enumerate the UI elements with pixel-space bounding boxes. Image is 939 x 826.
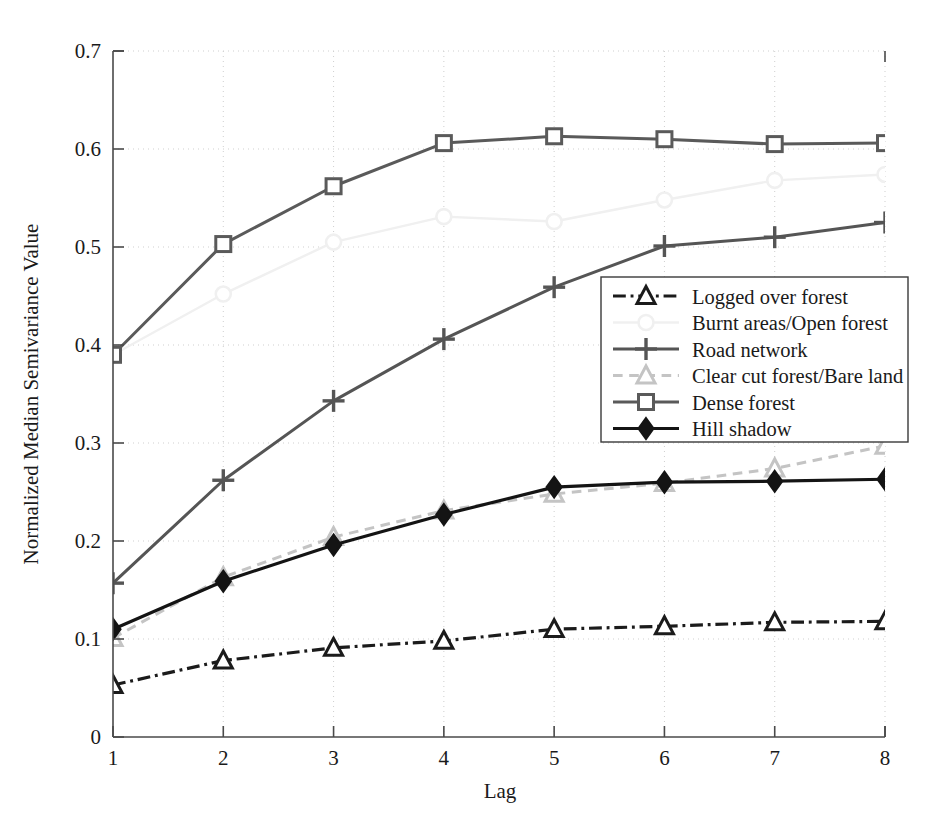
- y-tick-label: 0.5: [75, 235, 101, 259]
- data-point-circle-open: [767, 173, 782, 188]
- legend: Logged over forestBurnt areas/Open fores…: [601, 277, 908, 442]
- legend-label: Dense forest: [692, 392, 795, 414]
- legend-item-dense-forest[interactable]: Dense forest: [613, 392, 795, 414]
- data-point-circle-open: [547, 214, 562, 229]
- data-point-square-open: [878, 136, 893, 151]
- y-tick-label: 0.1: [75, 627, 101, 651]
- data-point-square-open: [216, 237, 231, 252]
- figure-container: 00.10.20.30.40.50.60.7 12345678 Lag Norm…: [0, 0, 939, 826]
- x-tick-label: 1: [108, 746, 119, 770]
- x-tick-label: 7: [769, 746, 780, 770]
- data-point-circle-open: [657, 192, 672, 207]
- data-point-square-open: [767, 137, 782, 152]
- semivariogram-chart: 00.10.20.30.40.50.60.7 12345678 Lag Norm…: [0, 0, 939, 826]
- data-point-circle-open: [436, 209, 451, 224]
- data-point-square-open: [639, 395, 654, 410]
- y-axis-title: Normalized Median Semivariance Value: [19, 224, 43, 565]
- data-point-square-open: [326, 179, 341, 194]
- y-tick-label: 0.6: [75, 137, 101, 161]
- data-point-circle-open: [216, 287, 231, 302]
- legend-label: Clear cut forest/Bare land: [692, 365, 903, 387]
- x-tick-label: 4: [439, 746, 450, 770]
- y-tick-label: 0.7: [75, 39, 101, 63]
- legend-label: Logged over forest: [692, 286, 848, 309]
- data-point-circle-open: [326, 235, 341, 250]
- legend-label: Road network: [692, 339, 808, 361]
- y-tick-label: 0: [91, 725, 102, 749]
- legend-label: Burnt areas/Open forest: [692, 312, 888, 335]
- legend-label: Hill shadow: [692, 418, 792, 440]
- y-tick-label: 0.3: [75, 431, 101, 455]
- x-axis-title: Lag: [484, 779, 517, 803]
- x-tick-label: 6: [659, 746, 670, 770]
- x-tick-label: 8: [880, 746, 891, 770]
- data-point-square-open: [547, 129, 562, 144]
- x-tick-label: 3: [328, 746, 339, 770]
- x-tick-label: 5: [549, 746, 560, 770]
- data-point-square-open: [436, 136, 451, 151]
- y-tick-label: 0.4: [75, 333, 102, 357]
- data-point-circle-open: [878, 167, 893, 182]
- x-tick-label: 2: [218, 746, 229, 770]
- y-tick-label: 0.2: [75, 529, 101, 553]
- data-point-square-open: [657, 132, 672, 147]
- data-point-circle-open: [639, 315, 654, 330]
